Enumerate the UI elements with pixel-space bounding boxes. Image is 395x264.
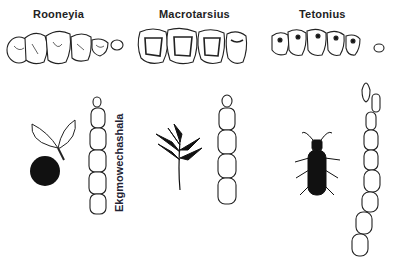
- macrotarsius-tooth-row: [138, 28, 246, 63]
- insect-icon: [295, 132, 340, 195]
- tetonius-tooth-column: [352, 83, 380, 256]
- rooneyia-tooth-row: [7, 31, 123, 63]
- ekgmowechashala-tooth-column: [89, 97, 106, 214]
- figure-drawing: [0, 0, 395, 264]
- tetonius-tooth-row: [272, 29, 384, 55]
- macrotarsius-tooth-column: [218, 95, 236, 204]
- fruit-icon: [30, 120, 75, 186]
- leaf-icon: [156, 124, 202, 190]
